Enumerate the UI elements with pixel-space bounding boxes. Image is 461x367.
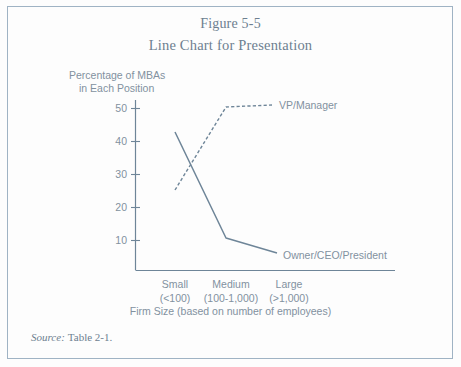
source-note: Source:Table 2-1. (31, 331, 112, 343)
x-category-large-name: Large (276, 278, 303, 290)
y-tick-label-30: 30 (101, 168, 127, 180)
series-label-vp-manager: VP/Manager (279, 99, 337, 111)
y-tick-label-50: 50 (101, 102, 127, 114)
x-category-large-range: (>1,000) (244, 291, 334, 305)
series-line-vp-manager (175, 105, 272, 190)
source-keyword: Source: (31, 331, 65, 343)
y-tick-label-10: 10 (101, 234, 127, 246)
y-tick-label-40: 40 (101, 135, 127, 147)
series-label-owner-ceo-president: Owner/CEO/President (283, 249, 387, 261)
x-category-large: Large (>1,000) (244, 277, 334, 305)
y-tick-label-20: 20 (101, 201, 127, 213)
series-line-owner-ceo-president (175, 132, 277, 253)
source-value: Table 2-1. (65, 331, 112, 343)
x-category-small-name: Small (162, 278, 188, 290)
page-background: Figure 5-5 Line Chart for Presentation P… (0, 0, 461, 367)
x-axis-label: Firm Size (based on number of employees) (0, 305, 461, 317)
